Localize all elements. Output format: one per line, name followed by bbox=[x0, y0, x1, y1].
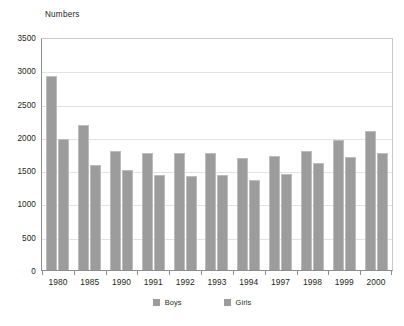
x-axis-tick-label-1991: 1991 bbox=[137, 277, 169, 287]
x-axis-tick-label-1980: 1980 bbox=[42, 277, 74, 287]
x-axis-tick-mark bbox=[201, 271, 233, 275]
bar-boys-1999 bbox=[333, 140, 344, 270]
bar-group-1993 bbox=[201, 38, 233, 270]
bar-group-1991 bbox=[137, 38, 169, 270]
bar-group-1999 bbox=[328, 38, 360, 270]
y-axis-tick-label-group: 0500100015002000250030003500 bbox=[0, 38, 36, 271]
x-axis-tick-mark bbox=[265, 271, 297, 275]
bar-boys-1991 bbox=[142, 153, 153, 270]
legend-label: Boys bbox=[165, 298, 182, 307]
bar-girls-1990 bbox=[122, 170, 133, 270]
y-axis-tick-label: 2000 bbox=[0, 133, 36, 142]
legend-item-boys[interactable]: Boys bbox=[153, 298, 182, 307]
bar-chart-figure: Numbers 0500100015002000250030003500 198… bbox=[0, 0, 404, 326]
x-axis-tick-mark bbox=[328, 271, 360, 275]
x-axis-tick-mark bbox=[169, 271, 201, 275]
bar-boys-1990 bbox=[110, 151, 121, 270]
bar-boys-1985 bbox=[78, 125, 89, 270]
legend-label: Girls bbox=[236, 298, 252, 307]
x-axis-tick-mark bbox=[297, 271, 329, 275]
y-axis-tick-label: 3000 bbox=[0, 67, 36, 76]
x-axis-tick-label-1990: 1990 bbox=[106, 277, 138, 287]
y-axis-tick-label: 0 bbox=[0, 267, 36, 276]
bar-group-1994 bbox=[233, 38, 265, 270]
x-axis-tick-label-1985: 1985 bbox=[74, 277, 106, 287]
x-axis-tick-label-1993: 1993 bbox=[201, 277, 233, 287]
x-axis-tick-label-group: 1980198519901991199219931994199719981999… bbox=[42, 277, 392, 287]
legend-swatch-icon bbox=[153, 299, 160, 306]
bar-girls-1999 bbox=[345, 157, 356, 270]
y-axis-tick-label: 1500 bbox=[0, 167, 36, 176]
bar-girls-1991 bbox=[154, 175, 165, 270]
bar-boys-1992 bbox=[174, 153, 185, 270]
x-axis-tick-mark bbox=[42, 271, 74, 275]
y-axis-title: Numbers bbox=[45, 10, 80, 19]
bar-girls-1998 bbox=[313, 163, 324, 270]
y-axis-tick-label: 500 bbox=[0, 233, 36, 242]
legend-swatch-icon bbox=[224, 299, 231, 306]
x-axis-tick-mark bbox=[106, 271, 138, 275]
x-axis-tick-mark-group bbox=[42, 271, 392, 275]
x-axis-tick-label-1994: 1994 bbox=[233, 277, 265, 287]
x-axis-tick-mark bbox=[360, 271, 392, 275]
x-axis-tick-label-1999: 1999 bbox=[328, 277, 360, 287]
chart-legend: BoysGirls bbox=[0, 298, 404, 307]
bar-group-1997 bbox=[265, 38, 297, 270]
bar-group-1980 bbox=[42, 38, 74, 270]
bar-group-2000 bbox=[360, 38, 392, 270]
x-axis-tick-label-2000: 2000 bbox=[360, 277, 392, 287]
bar-girls-1992 bbox=[186, 176, 197, 270]
bar-boys-1994 bbox=[237, 158, 248, 270]
bar-girls-1980 bbox=[58, 139, 69, 270]
bar-group-1985 bbox=[74, 38, 106, 270]
x-axis-tick-mark bbox=[233, 271, 265, 275]
bar-boys-1998 bbox=[301, 151, 312, 270]
y-axis-tick-label: 2500 bbox=[0, 100, 36, 109]
x-axis-tick-mark bbox=[74, 271, 106, 275]
bar-girls-1994 bbox=[249, 180, 260, 270]
y-axis-tick-label: 1000 bbox=[0, 200, 36, 209]
bar-group-1990 bbox=[106, 38, 138, 270]
legend-item-girls[interactable]: Girls bbox=[224, 298, 252, 307]
bar-girls-1985 bbox=[90, 165, 101, 270]
bar-boys-1993 bbox=[205, 153, 216, 270]
x-axis-tick-label-1997: 1997 bbox=[265, 277, 297, 287]
bar-boys-2000 bbox=[365, 131, 376, 270]
y-axis-tick-label: 3500 bbox=[0, 34, 36, 43]
bar-girls-1997 bbox=[281, 174, 292, 270]
bar-group-1992 bbox=[169, 38, 201, 270]
x-axis-tick-mark bbox=[137, 271, 169, 275]
bar-girls-2000 bbox=[377, 153, 388, 270]
x-axis-tick-label-1998: 1998 bbox=[297, 277, 329, 287]
bar-boys-1997 bbox=[269, 156, 280, 270]
bar-boys-1980 bbox=[46, 76, 57, 270]
bar-girls-1993 bbox=[217, 175, 228, 270]
bar-group-container bbox=[42, 38, 392, 270]
bar-group-1998 bbox=[297, 38, 329, 270]
x-axis-tick-label-1992: 1992 bbox=[169, 277, 201, 287]
